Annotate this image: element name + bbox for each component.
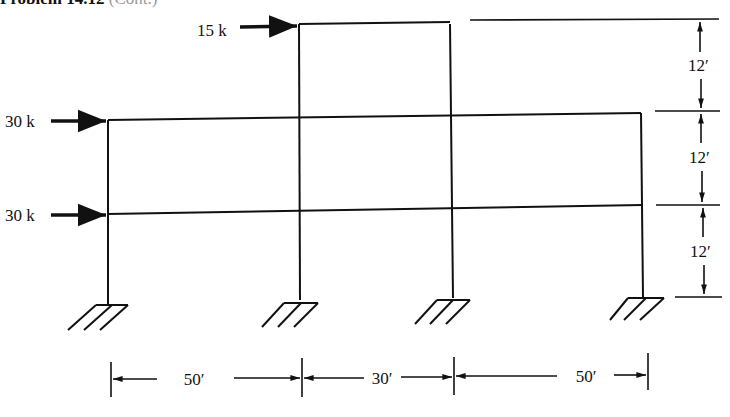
load-first-floor: 30 k xyxy=(5,206,106,225)
load-roof: 15 k xyxy=(197,21,297,40)
first-floor-beam xyxy=(108,205,642,214)
load-arrow xyxy=(240,26,297,27)
support-3 xyxy=(415,300,470,324)
dim-label: 12′ xyxy=(690,242,711,261)
vertical-dimensions xyxy=(470,19,722,297)
dim-label: 50′ xyxy=(576,367,597,386)
load-label: 30 k xyxy=(5,206,35,225)
load-label: 30 k xyxy=(5,112,35,131)
dim-label: 30′ xyxy=(372,369,393,388)
columns xyxy=(108,24,643,305)
support-2 xyxy=(262,303,318,327)
frame-diagram: 15 k 30 k 30 k 12′ 12′ 12′ xyxy=(0,0,730,417)
dim-label: 12′ xyxy=(689,148,710,167)
second-floor-beam xyxy=(108,113,641,120)
loads: 15 k 30 k 30 k xyxy=(5,21,297,225)
column-3 xyxy=(450,24,453,298)
roof-beam xyxy=(299,22,450,24)
support-1 xyxy=(68,305,128,330)
extension-line xyxy=(470,19,719,20)
support-4 xyxy=(610,298,664,320)
fixed-supports xyxy=(68,298,664,330)
vertical-dimension-labels: 12′ 12′ 12′ xyxy=(688,56,711,261)
load-second-floor: 30 k xyxy=(5,112,106,131)
beams xyxy=(108,22,642,214)
column-2 xyxy=(299,24,300,300)
load-label: 15 k xyxy=(197,21,227,40)
dim-label: 12′ xyxy=(688,56,709,75)
dim-label: 50′ xyxy=(184,370,205,389)
